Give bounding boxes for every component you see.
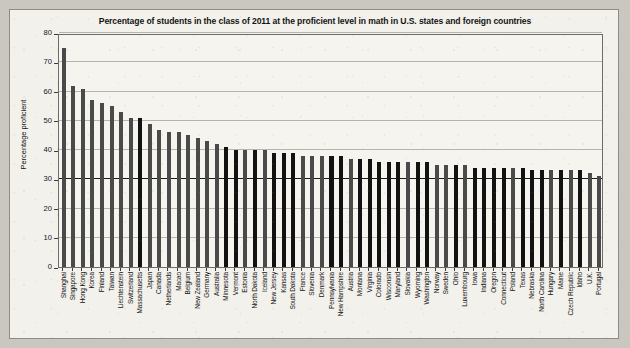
bar (205, 141, 209, 267)
bar (559, 170, 563, 267)
x-tick-mark (588, 268, 589, 271)
bar (463, 165, 467, 267)
x-tick-label: Idaho (576, 272, 583, 288)
x-tick-mark (397, 268, 398, 271)
x-tick-mark (187, 268, 188, 271)
chart-title: Percentage of students in the class of 2… (10, 16, 620, 26)
bar (492, 168, 496, 267)
x-tick-mark (406, 268, 407, 271)
x-tick-label: Connecticut (499, 272, 506, 305)
x-tick-label: Austria (346, 272, 353, 291)
x-tick-mark (292, 268, 293, 271)
x-tick-label: Colorado (375, 272, 382, 297)
bar (157, 130, 161, 267)
x-tick-mark (598, 268, 599, 271)
bar (196, 138, 200, 267)
x-tick-label: Hong Kong (78, 272, 85, 303)
bar (454, 165, 458, 267)
x-tick-label: Poland (509, 272, 516, 291)
x-tick-mark (559, 268, 560, 271)
bar (482, 168, 486, 267)
x-tick-mark (101, 268, 102, 271)
bar (167, 132, 171, 267)
x-tick-mark (263, 268, 264, 271)
x-tick-label: Denmark (317, 272, 324, 297)
x-tick-label: France (298, 272, 305, 291)
x-tick-label: Finland (98, 272, 105, 292)
x-tick-mark (139, 268, 140, 271)
x-tick-label: Massachusetts (136, 272, 143, 313)
bar (110, 106, 114, 267)
x-tick-mark (368, 268, 369, 271)
x-tick-mark (540, 268, 541, 271)
bar (339, 156, 343, 267)
x-tick-label: Slovenia (308, 272, 315, 296)
x-tick-label: Switzerland (126, 272, 133, 304)
bar (435, 165, 439, 267)
bar (71, 86, 75, 267)
x-tick-label: Japan (145, 272, 152, 289)
x-tick-mark (273, 268, 274, 271)
bar (387, 162, 391, 267)
bar (291, 153, 295, 267)
bar (578, 170, 582, 267)
bar (521, 168, 525, 267)
bar (100, 103, 104, 267)
x-axis: ShanghaiSingaporeHong KongKoreaFinlandTa… (58, 268, 603, 336)
y-tick-label: 30 (44, 174, 52, 183)
x-tick-label: Vermont (231, 272, 238, 295)
bar (186, 135, 190, 267)
x-tick-label: Canada (155, 272, 162, 294)
x-tick-mark (120, 268, 121, 271)
bar (349, 159, 353, 267)
x-tick-label: Germany (203, 272, 210, 298)
x-tick-label: New Zealand (193, 272, 200, 309)
bar (511, 168, 515, 267)
x-tick-mark (167, 268, 168, 271)
y-tick-label: 40 (44, 145, 52, 154)
x-tick-label: New Hampshire (337, 272, 344, 316)
bar (215, 144, 219, 267)
x-tick-label: Singapore (69, 272, 76, 300)
bar (473, 168, 477, 267)
x-tick-label: Netherlands (164, 272, 171, 305)
x-tick-mark (72, 268, 73, 271)
x-tick-label: New Jersey (270, 272, 277, 304)
x-tick-label: Slovakia (403, 272, 410, 295)
x-tick-mark (311, 268, 312, 271)
y-tick-label: 20 (44, 204, 52, 213)
bar (81, 89, 85, 267)
x-tick-mark (81, 268, 82, 271)
bar (177, 132, 181, 267)
x-tick-label: Luxembourg (461, 272, 468, 307)
bar (148, 124, 152, 267)
bar (138, 118, 142, 267)
bar (224, 147, 228, 267)
bar (549, 170, 553, 267)
x-tick-label: Washington (423, 272, 430, 305)
x-tick-mark (378, 268, 379, 271)
bar (272, 153, 276, 267)
bar (377, 162, 381, 267)
x-tick-label: Kansas (279, 272, 286, 293)
x-tick-mark (359, 268, 360, 271)
x-tick-mark (493, 268, 494, 271)
x-tick-label: Australia (212, 272, 219, 296)
x-tick-mark (569, 268, 570, 271)
y-tick-label: 0 (48, 262, 52, 271)
gridline (59, 32, 602, 33)
bar (588, 173, 592, 267)
x-tick-mark (502, 268, 503, 271)
x-tick-mark (320, 268, 321, 271)
x-tick-mark (521, 268, 522, 271)
x-tick-mark (483, 268, 484, 271)
x-tick-label: Portugal (595, 272, 602, 295)
y-tick-label: 60 (44, 87, 52, 96)
y-tick-label: 10 (44, 233, 52, 242)
x-tick-label: Estonia (241, 272, 248, 293)
x-tick-label: North Carolina (537, 272, 544, 312)
x-tick-mark (148, 268, 149, 271)
bar (597, 176, 601, 267)
x-tick-label: Hungary (547, 272, 554, 296)
x-tick-label: Belgium (184, 272, 191, 294)
